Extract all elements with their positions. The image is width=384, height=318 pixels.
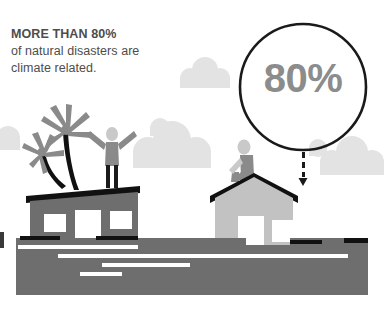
dashed-down-arrow-icon [299,152,308,186]
infographic-canvas: MORE THAN 80% of natural disasters are c… [0,0,384,318]
wave-line [102,263,190,267]
flood-water [16,236,368,295]
cloud-icon [0,126,20,150]
headline: MORE THAN 80% of natural disasters are c… [11,26,191,77]
headline-line-1: MORE THAN 80% [11,26,191,43]
cloud-icon [320,136,384,175]
wave-line [80,272,122,276]
edge-marker [0,232,4,248]
person-arms-raised-icon [87,127,137,188]
wave-line [18,245,138,249]
wave-line [58,254,348,258]
window [110,211,132,229]
window [44,214,66,232]
cloud-icon [150,118,172,138]
palm-tree-icon [22,132,66,189]
headline-line-2: of natural disasters are [11,43,191,60]
headline-line-3: climate related. [11,60,191,77]
stat-percentage-label: 80% [248,56,358,101]
